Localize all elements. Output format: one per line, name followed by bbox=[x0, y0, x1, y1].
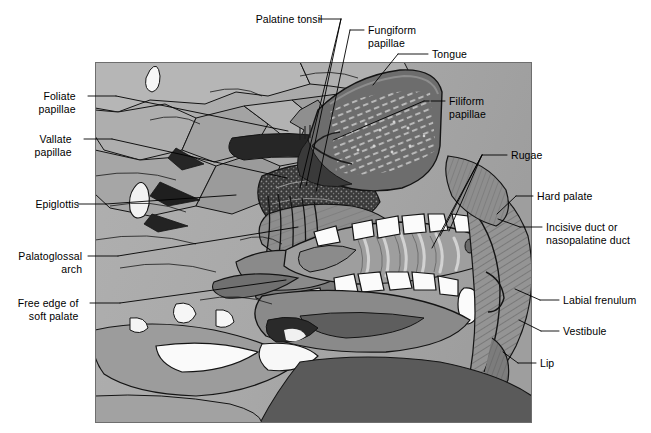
label-incisive-duct: Incisive duct or nasopalatine duct bbox=[546, 221, 630, 246]
label-labial-frenulum: Labial frenulum bbox=[563, 294, 636, 307]
label-palatoglossal-arch: Palatoglossal arch bbox=[18, 250, 82, 275]
label-foliate-papillae: Foliate papillae bbox=[39, 90, 76, 115]
label-hard-palate: Hard palate bbox=[537, 190, 592, 203]
label-filiform-papillae: Filiform papillae bbox=[449, 95, 486, 120]
label-free-edge-soft-palate: Free edge of soft palate bbox=[18, 297, 79, 322]
label-tongue: Tongue bbox=[432, 48, 467, 61]
label-epiglottis: Epiglottis bbox=[35, 198, 79, 211]
label-fungiform-papillae: Fungiform papillae bbox=[368, 24, 416, 49]
label-vestibule: Vestibule bbox=[563, 325, 607, 338]
label-rugae: Rugae bbox=[511, 149, 542, 162]
label-lip: Lip bbox=[540, 357, 554, 370]
label-vallate-papillae: Vallate papillae bbox=[35, 133, 72, 158]
label-palatine-tonsil: Palatine tonsil bbox=[256, 13, 323, 26]
